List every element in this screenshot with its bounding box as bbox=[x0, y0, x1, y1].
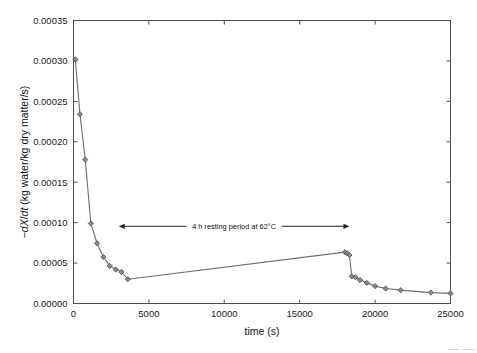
y-axis-title-text: −dX/dt (kg water/kg dry matter/s) bbox=[18, 86, 30, 239]
y-tick-label-7: 0.00035 bbox=[33, 15, 67, 26]
x-axis-title: time (s) bbox=[245, 325, 280, 337]
y-tick-label-0: 0.00000 bbox=[33, 298, 67, 309]
y-tick-label-6: 0.00030 bbox=[33, 55, 67, 66]
y-tick-label-4: 0.00020 bbox=[33, 136, 67, 147]
x-tick-label-0: 0 bbox=[71, 308, 76, 319]
y-tick-label-3: 0.00015 bbox=[33, 177, 67, 188]
scan-artifact-text: —— —— bbox=[447, 346, 475, 352]
x-tick-label-3: 15000 bbox=[286, 308, 312, 319]
annotation-label: 4 h resting period at 62°C bbox=[192, 222, 277, 231]
x-tick-label-4: 20000 bbox=[362, 308, 388, 319]
y-axis-title: −dX/dt (kg water/kg dry matter/s) bbox=[18, 86, 30, 239]
y-tick-label-5: 0.00025 bbox=[33, 96, 67, 107]
drying-rate-line-chart: 0500010000150002000025000 0.000000.00005… bbox=[0, 0, 477, 353]
y-tick-label-2: 0.00010 bbox=[33, 217, 67, 228]
x-tick-label-2: 10000 bbox=[211, 308, 237, 319]
chart-background bbox=[0, 0, 477, 353]
x-tick-label-1: 5000 bbox=[138, 308, 159, 319]
x-tick-label-5: 25000 bbox=[437, 308, 463, 319]
chart-figure: 0500010000150002000025000 0.000000.00005… bbox=[0, 0, 477, 353]
y-tick-label-1: 0.00005 bbox=[33, 257, 67, 268]
